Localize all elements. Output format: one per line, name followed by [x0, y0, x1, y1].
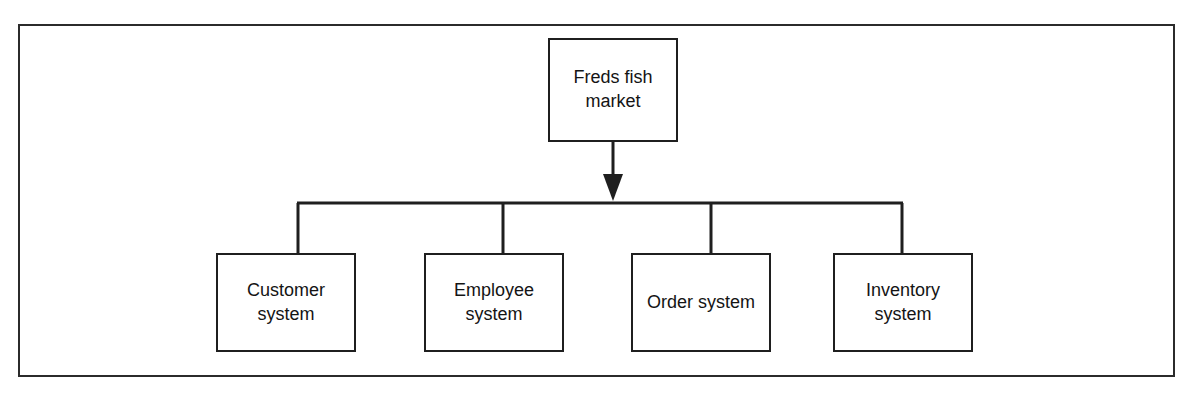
- node-customer-system: Customer system: [216, 253, 356, 352]
- node-root: Freds fish market: [548, 38, 678, 142]
- diagram-canvas: Freds fish market Customer system Employ…: [0, 0, 1196, 399]
- node-root-label: Freds fish market: [550, 66, 676, 114]
- node-inventory-system: Inventory system: [833, 253, 973, 352]
- node-employee-system: Employee system: [424, 253, 564, 352]
- node-employee-system-label: Employee system: [426, 279, 562, 327]
- clipped-header-text: [0, 0, 1196, 12]
- node-order-system-label: Order system: [641, 291, 761, 315]
- node-inventory-system-label: Inventory system: [835, 279, 971, 327]
- node-order-system: Order system: [631, 253, 771, 352]
- node-customer-system-label: Customer system: [218, 279, 354, 327]
